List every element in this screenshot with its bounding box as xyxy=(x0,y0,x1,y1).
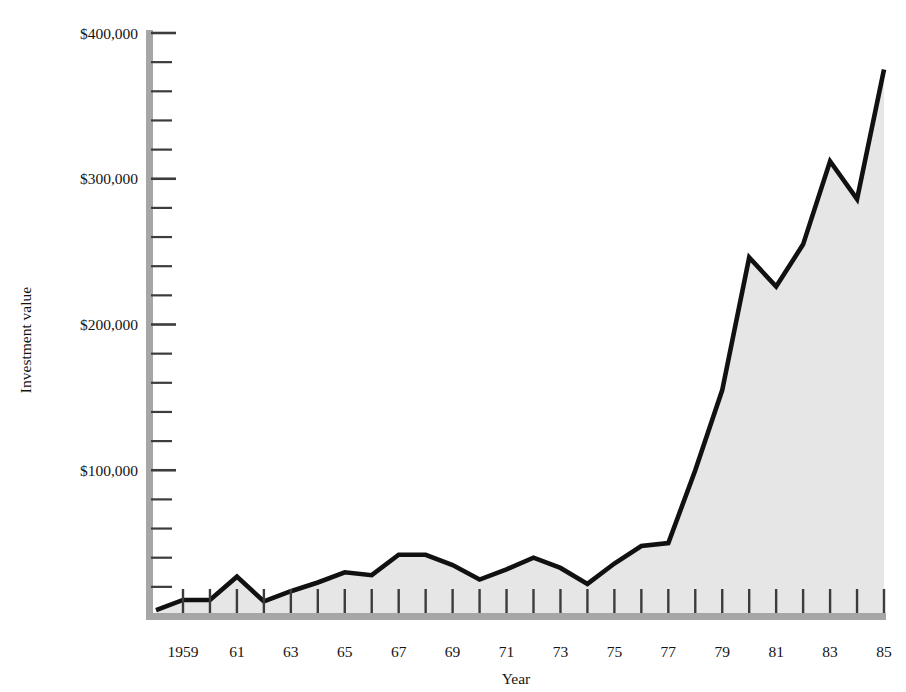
x-axis-tick-label: 83 xyxy=(822,643,838,660)
x-axis-tick-label: 85 xyxy=(876,643,892,660)
x-axis-tick-label: 63 xyxy=(283,643,299,660)
x-axis-title: Year xyxy=(502,670,531,687)
x-axis-tick-label: 1959 xyxy=(168,643,199,660)
x-axis-tick-label: 73 xyxy=(553,643,569,660)
chart-page: $100,000$200,000$300,000$400,000 1959616… xyxy=(0,0,906,692)
x-axis-tick-label: 77 xyxy=(661,643,677,660)
x-axis-tick-label: 75 xyxy=(607,643,623,660)
y-axis-title: Investment value xyxy=(17,287,34,393)
investment-value-area-chart: $100,000$200,000$300,000$400,000 1959616… xyxy=(0,0,906,692)
x-axis-tick-label: 67 xyxy=(391,643,407,660)
y-axis-tick-label: $200,000 xyxy=(80,316,138,333)
x-axis-tick-label: 61 xyxy=(229,643,245,660)
y-axis-tick-label: $300,000 xyxy=(80,170,138,187)
x-axis-tick-label: 65 xyxy=(337,643,353,660)
y-axis-tick-label: $400,000 xyxy=(80,25,138,42)
x-axis-tick-label: 71 xyxy=(499,643,515,660)
x-axis-tick-label: 69 xyxy=(445,643,461,660)
x-axis-tick-label: 81 xyxy=(768,643,784,660)
x-axis-spine xyxy=(146,613,886,620)
x-axis-tick-label: 79 xyxy=(714,643,730,660)
y-axis-tick-label: $100,000 xyxy=(80,462,138,479)
